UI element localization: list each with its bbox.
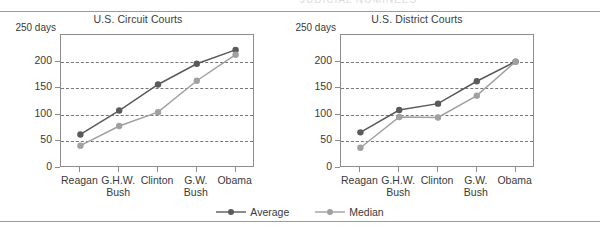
data-point bbox=[435, 114, 441, 120]
data-point bbox=[77, 142, 83, 148]
y-tick-mark bbox=[55, 114, 60, 115]
legend-item-median: Median bbox=[315, 206, 383, 218]
legend: Average Median bbox=[0, 206, 600, 218]
legend-item-average: Average bbox=[216, 206, 289, 218]
line-marker-icon bbox=[216, 207, 246, 217]
x-tick-mark bbox=[476, 167, 477, 172]
y-tick-label: 0 bbox=[288, 160, 332, 172]
data-point bbox=[396, 107, 402, 113]
data-point bbox=[474, 78, 480, 84]
x-tick-mark bbox=[196, 167, 197, 172]
y-tick-label: 150 bbox=[288, 80, 332, 92]
y-tick-mark bbox=[335, 114, 340, 115]
x-tick-mark bbox=[437, 167, 438, 172]
data-point bbox=[77, 131, 83, 137]
plot-area bbox=[60, 34, 254, 167]
data-point bbox=[194, 78, 200, 84]
y-tick-mark bbox=[335, 167, 340, 168]
y-tick-mark bbox=[55, 87, 60, 88]
data-point bbox=[194, 61, 200, 67]
line-marker-icon bbox=[315, 207, 345, 217]
y-tick-mark bbox=[335, 140, 340, 141]
y-tick-mark bbox=[335, 87, 340, 88]
y-tick-label: 150 bbox=[8, 80, 52, 92]
y-tick-mark bbox=[335, 61, 340, 62]
x-tick-mark bbox=[79, 167, 80, 172]
data-point bbox=[512, 58, 518, 64]
y-tick-mark bbox=[55, 61, 60, 62]
legend-label: Average bbox=[250, 206, 289, 218]
x-tick-label: Obama bbox=[208, 174, 262, 186]
bottom-divider-rule bbox=[0, 221, 600, 222]
data-point bbox=[116, 107, 122, 113]
x-tick-mark bbox=[359, 167, 360, 172]
top-divider-rule bbox=[0, 11, 600, 12]
x-tick-label: Obama bbox=[488, 174, 542, 186]
y-axis-unit-label: 250 days bbox=[284, 22, 336, 33]
chart-district-courts: U.S. District Courts 250 days 0501001502… bbox=[284, 13, 550, 203]
y-tick-mark bbox=[55, 140, 60, 141]
chart-circuit-courts: U.S. Circuit Courts 250 days 05010015020… bbox=[2, 13, 274, 203]
series-layer bbox=[341, 35, 535, 168]
data-point bbox=[116, 123, 122, 129]
y-tick-label: 100 bbox=[288, 107, 332, 119]
series-line-average bbox=[360, 62, 515, 133]
data-point bbox=[232, 51, 238, 57]
data-point bbox=[396, 114, 402, 120]
series-line-average bbox=[80, 50, 235, 135]
plot-area bbox=[340, 34, 534, 167]
y-tick-mark bbox=[55, 167, 60, 168]
data-point bbox=[357, 129, 363, 135]
data-point bbox=[474, 92, 480, 98]
x-tick-mark bbox=[235, 167, 236, 172]
x-tick-mark bbox=[515, 167, 516, 172]
y-tick-label: 100 bbox=[8, 107, 52, 119]
y-tick-label: 50 bbox=[8, 133, 52, 145]
series-layer bbox=[61, 35, 255, 168]
y-tick-label: 200 bbox=[8, 54, 52, 66]
legend-label: Median bbox=[349, 206, 383, 218]
x-tick-mark bbox=[157, 167, 158, 172]
data-point bbox=[155, 109, 161, 115]
x-tick-mark bbox=[398, 167, 399, 172]
data-point bbox=[155, 81, 161, 87]
series-line-median bbox=[80, 55, 235, 146]
data-point bbox=[435, 100, 441, 106]
clipped-header-text: JUDICIAL NOMINEES bbox=[300, 0, 470, 9]
x-tick-mark bbox=[118, 167, 119, 172]
y-tick-label: 0 bbox=[8, 160, 52, 172]
data-point bbox=[357, 145, 363, 151]
figure-root: JUDICIAL NOMINEES U.S. Circuit Courts 25… bbox=[0, 0, 600, 231]
y-axis-unit-label: 250 days bbox=[2, 22, 56, 33]
y-tick-label: 200 bbox=[288, 54, 332, 66]
y-tick-label: 50 bbox=[288, 133, 332, 145]
